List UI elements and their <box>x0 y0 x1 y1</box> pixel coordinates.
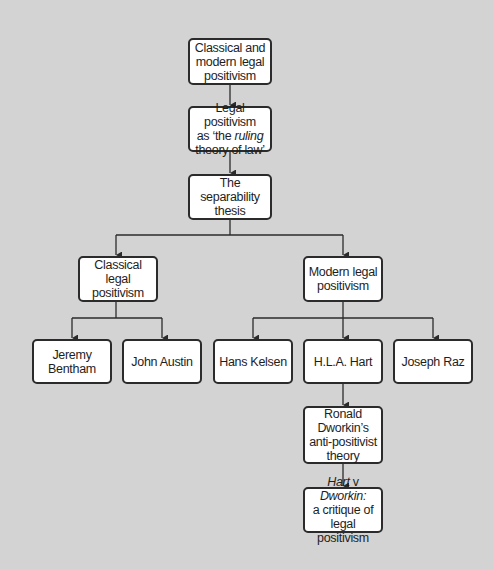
node-joseph-raz: Joseph Raz <box>393 339 473 384</box>
connector-lines <box>0 0 493 569</box>
node-hart-v-dworkin: Hart v Dworkin: a critique of legal posi… <box>303 487 383 533</box>
node-separability-thesis: The separability thesis <box>188 174 272 220</box>
node-ruling-theory-of-law: Legal positivism as ‘the ruling theory o… <box>188 106 272 152</box>
node-classical-and-modern-legal-positivism: Classical and modern legal positivism <box>188 38 272 85</box>
node-john-austin: John Austin <box>122 339 202 384</box>
node-modern-legal-positivism: Modern legal positivism <box>303 256 383 302</box>
node-classical-legal-positivism: Classical legal positivism <box>78 256 158 302</box>
node-dworkin-anti-positivist-theory: Ronald Dworkin’s anti-positivist theory <box>303 406 383 464</box>
node-hla-hart: H.L.A. Hart <box>303 339 383 384</box>
node-hans-kelsen: Hans Kelsen <box>213 339 293 384</box>
diagram-canvas: Classical and modern legal positivism Le… <box>0 0 493 569</box>
node-jeremy-bentham: Jeremy Bentham <box>32 339 112 384</box>
